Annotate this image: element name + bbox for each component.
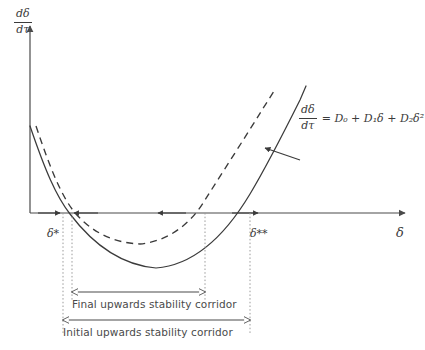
stability-corridor-figure: dδ dτ δ dδ dτ = D₀ + D₁δ + D₂δ² δ* δ** F… xyxy=(0,0,425,350)
equation-annotation: dδ dτ = D₀ + D₁δ + D₂δ² xyxy=(299,104,424,132)
equation-lhs-numerator: dδ xyxy=(299,104,317,119)
corridor-caption-final: Final upwards stability corridor xyxy=(72,298,237,310)
equation-lhs-fraction: dδ dτ xyxy=(299,104,317,132)
curve-final-solid xyxy=(30,86,306,268)
y-axis-label-denominator: dτ xyxy=(14,23,32,37)
delta-star-label: δ* xyxy=(47,228,59,239)
equation-rhs: = D₀ + D₁δ + D₂δ² xyxy=(322,112,424,125)
corridor-caption-initial: Initial upwards stability corridor xyxy=(63,326,233,338)
y-axis-label: dδ dτ xyxy=(14,8,32,36)
x-axis-label: δ xyxy=(396,226,404,239)
equation-lhs-denominator: dτ xyxy=(299,119,317,133)
y-axis-label-numerator: dδ xyxy=(14,8,32,23)
delta-double-star-label: δ** xyxy=(250,228,268,239)
